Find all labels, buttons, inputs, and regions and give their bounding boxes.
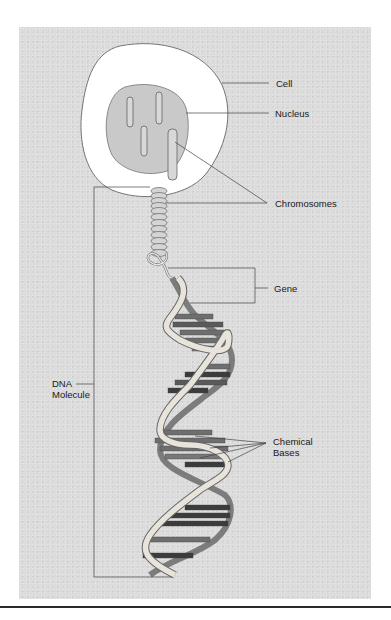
label-dna-line2: Molecule bbox=[52, 389, 90, 400]
label-dna-line1: DNA bbox=[52, 378, 72, 389]
label-chromosomes: Chromosomes bbox=[275, 198, 337, 209]
label-gene: Gene bbox=[274, 283, 297, 294]
bottom-rule bbox=[0, 606, 391, 608]
label-bases-line2: Bases bbox=[273, 447, 299, 458]
chromatin-coil bbox=[148, 188, 172, 279]
dna-diagram bbox=[0, 0, 391, 620]
label-bases-line1: Chemical bbox=[273, 436, 313, 447]
label-cell: Cell bbox=[276, 78, 292, 89]
label-nucleus: Nucleus bbox=[275, 108, 309, 119]
dna-helix bbox=[143, 278, 232, 575]
